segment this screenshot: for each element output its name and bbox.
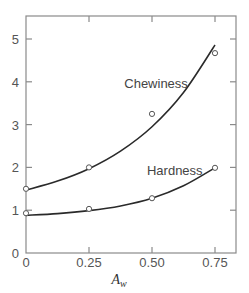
chewiness-label: Chewiness [124,76,188,91]
y-tick-label: 1 [12,203,19,218]
x-axis-title-main: A [110,272,120,287]
hardness-data-point [23,211,28,216]
y-tick-label: 5 [12,32,19,47]
series-labels: ChewinessHardness [124,76,203,178]
y-tick-label: 2 [12,160,19,175]
plot-border [26,16,236,253]
x-tick-label: 0.50 [139,255,164,270]
x-tick-label: 0.75 [202,255,227,270]
chewiness-data-point [86,165,91,170]
y-tick-label: 4 [12,75,19,90]
hardness-data-point [149,196,154,201]
series-markers [23,51,217,216]
chewiness-data-point [212,51,217,56]
x-axis-title-subscript: w [120,278,127,289]
series-curves [26,45,215,215]
hardness-data-point [86,206,91,211]
plot-frame [26,16,236,253]
y-tick-label: 3 [12,118,19,133]
x-tick-label: 0 [22,255,29,270]
y-tick-label: 0 [12,246,19,261]
hardness-data-point [212,165,217,170]
x-tick-label: 0.25 [76,255,101,270]
x-axis-title: Aw [110,272,127,289]
hardness-label: Hardness [147,163,203,178]
chewiness-data-point [149,111,154,116]
chewiness-data-point [23,186,28,191]
chart: 00.250.500.75012345 ChewinessHardness Aw [0,0,249,293]
axis-ticks [26,16,236,253]
